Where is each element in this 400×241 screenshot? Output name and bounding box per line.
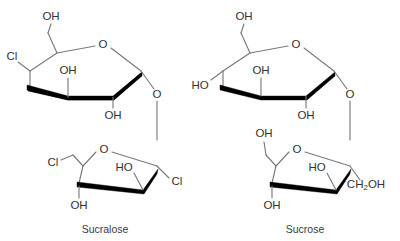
bond-s-o5-c1 [304, 48, 334, 71]
structures-svg: OH O Cl OH OH O O Cl OH [0, 0, 400, 241]
bond-o5-c1 [111, 48, 141, 71]
bond-sf-c6-oh [264, 142, 266, 155]
bond-s-c5-c4 [223, 53, 250, 71]
label-sucrose-c6-oh: OH [235, 10, 252, 22]
label-sucrose-glycosidic-o: O [346, 88, 355, 100]
sucralose-furanose-ring: O Cl OH HO Cl [48, 143, 183, 211]
sucrose-furanose-ring: O OH OH HO CH2OH [255, 127, 385, 211]
caption-sucrose: Sucrose [286, 223, 325, 235]
bond-s-c1-glycosidic-o [334, 71, 347, 89]
label-sucrose-c3-oh: OH [252, 64, 269, 76]
bond-s-c5-c6 [241, 33, 250, 53]
bond-s-front-edge-bold [220, 72, 335, 100]
ch2oh-ch: CH [347, 178, 364, 190]
bond-front-edge-fill [27, 72, 142, 100]
bond-c5-c6 [48, 33, 57, 53]
bond-s-c6-oh [241, 24, 244, 33]
bond-sf-c5-c6 [266, 155, 276, 166]
chemical-structure-figure: OH O Cl OH OH O O Cl OH [0, 0, 400, 241]
bond-c1-glycosidic-o [141, 71, 154, 89]
bond-f-c6-cl [61, 155, 73, 160]
label-sucralose-glycosidic-o: O [153, 88, 162, 100]
label-sucrose-c2-oh: OH [297, 109, 314, 121]
bond-c4-cl [18, 62, 30, 71]
label-sucrose-c4-ho: HO [191, 79, 208, 91]
bond-s-c4-ho [211, 71, 223, 80]
caption-sucralose: Sucralose [82, 223, 129, 235]
label-sucralose-c2-oh: OH [104, 109, 121, 121]
label-sucrose-f-c4-ho: HO [308, 161, 325, 173]
bond-sf-c4-c3 [272, 166, 276, 183]
label-sucralose-c6-oh: OH [42, 10, 59, 22]
label-sucralose-f-c1-cl: Cl [172, 175, 183, 187]
bond-c5-c4 [30, 53, 57, 71]
bond-f-c1-cl [157, 166, 169, 178]
label-sucralose-c4-cl: Cl [7, 50, 18, 62]
bond-s-c5-o5 [250, 46, 288, 53]
label-sucralose-f-ring-o: O [100, 143, 109, 155]
sucrose-pyranose-ring: OH O HO OH OH O [191, 10, 354, 140]
label-sucrose-f-ch2oh: CH2OH [347, 178, 385, 192]
label-sucralose-ring-o: O [99, 38, 108, 50]
label-sucralose-c3-oh: OH [59, 64, 76, 76]
ch2oh-oh: OH [368, 178, 385, 190]
bond-f-o-c4 [83, 152, 96, 166]
label-sucralose-f-c3-oh: OH [70, 199, 87, 211]
label-sucralose-f-c6-cl: Cl [48, 156, 59, 168]
bond-f-c5-c6 [73, 155, 83, 166]
bond-sf-c4-ho [327, 173, 336, 190]
label-sucrose-f-c3-oh: OH [263, 199, 280, 211]
label-sucrose-f-ring-o: O [293, 143, 302, 155]
bond-f-c4-c3 [79, 166, 83, 183]
label-sucrose-ring-o: O [292, 38, 301, 50]
sucralose-pyranose-ring: OH O Cl OH OH O [7, 10, 162, 140]
bond-c5-o5 [57, 46, 95, 53]
bond-sf-o-c4 [276, 152, 289, 166]
bond-c6-oh [48, 24, 51, 33]
label-sucrose-f-c6-oh: OH [255, 127, 272, 139]
label-sucralose-f-c4-ho: HO [115, 161, 132, 173]
bond-f-c4-ho [134, 173, 143, 190]
